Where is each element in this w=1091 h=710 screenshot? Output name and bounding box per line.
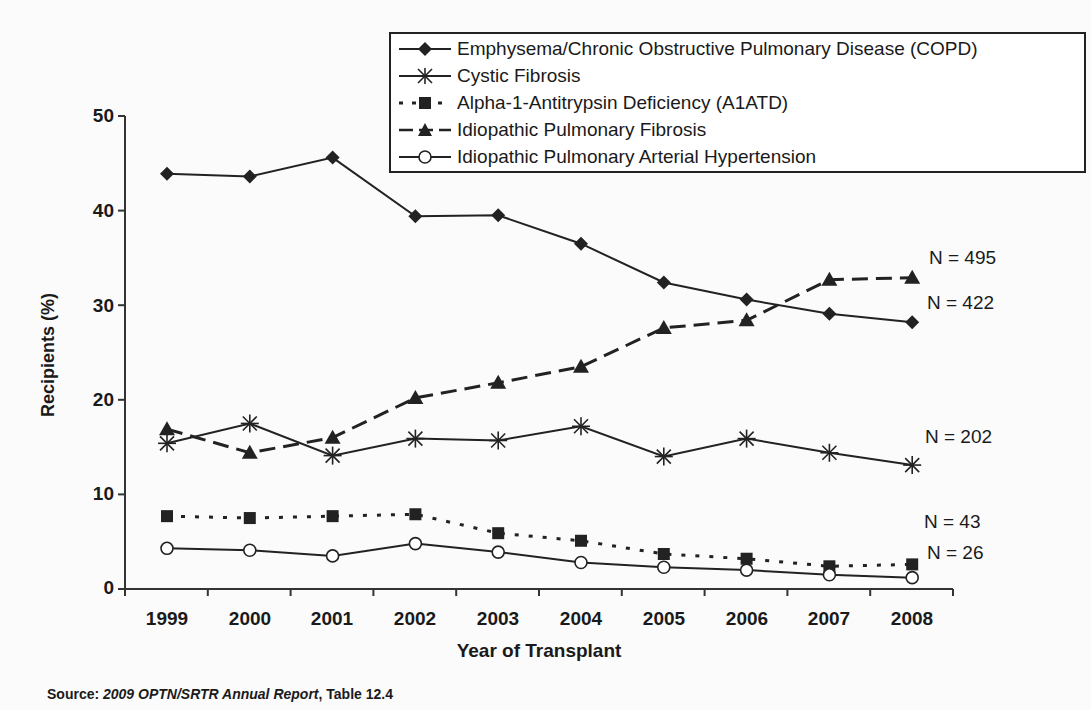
triangle-marker-icon: [397, 120, 453, 140]
data-point-circle: [161, 542, 173, 554]
x-tick-1999: 1999: [146, 608, 188, 630]
x-tick-2004: 2004: [560, 608, 602, 630]
legend-label: Emphysema/Chronic Obstructive Pulmonary …: [457, 38, 978, 60]
data-point-asterisk: [324, 447, 342, 465]
data-point-square: [575, 535, 587, 547]
square-marker-icon: [397, 93, 453, 113]
n-label-ipah: N = 26: [927, 542, 984, 564]
series-diamond: [160, 151, 919, 330]
data-point-asterisk: [572, 417, 590, 435]
data-point-circle: [244, 544, 256, 556]
source-caption: Source: 2009 OPTN/SRTR Annual Report, Ta…: [47, 686, 393, 702]
data-point-asterisk: [158, 434, 176, 452]
y-axis-label: Recipients (%): [38, 293, 59, 417]
chart-legend: Emphysema/Chronic Obstructive Pulmonary …: [389, 32, 1086, 173]
legend-label: Idiopathic Pulmonary Arterial Hypertensi…: [457, 146, 816, 168]
data-point-square: [161, 510, 173, 522]
data-point-triangle: [656, 320, 672, 334]
data-point-square: [492, 527, 504, 539]
data-point-square: [327, 510, 339, 522]
data-point-diamond: [574, 237, 588, 251]
x-axis-label: Year of Transplant: [457, 640, 622, 662]
x-tick-2006: 2006: [726, 608, 768, 630]
y-tick-10: 10: [74, 483, 114, 505]
legend-label: Alpha-1-Antitrypsin Deficiency (A1ATD): [457, 92, 788, 114]
x-tick-2002: 2002: [394, 608, 436, 630]
data-point-circle: [492, 546, 504, 558]
legend-label: Cystic Fibrosis: [457, 65, 581, 87]
x-tick-2007: 2007: [808, 608, 850, 630]
data-point-asterisk: [655, 448, 673, 466]
data-point-circle: [823, 569, 835, 581]
series-triangle: [159, 270, 920, 459]
x-tick-2008: 2008: [891, 608, 933, 630]
n-label-a1atd: N = 43: [924, 511, 981, 533]
data-point-square: [409, 508, 421, 520]
y-tick-40: 40: [74, 200, 114, 222]
data-point-triangle: [739, 312, 755, 326]
data-point-asterisk: [738, 430, 756, 448]
data-point-square: [906, 558, 918, 570]
y-tick-20: 20: [74, 389, 114, 411]
data-point-square: [741, 553, 753, 565]
data-point-square: [244, 512, 256, 524]
data-point-diamond: [160, 167, 174, 181]
legend-item-a1atd: Alpha-1-Antitrypsin Deficiency (A1ATD): [397, 90, 788, 116]
n-label-cf: N = 202: [925, 426, 992, 448]
data-point-asterisk: [820, 444, 838, 462]
data-point-asterisk: [241, 414, 259, 432]
data-point-diamond: [326, 151, 340, 165]
x-tick-2003: 2003: [477, 608, 519, 630]
y-tick-50: 50: [74, 105, 114, 127]
circle-marker-icon: [397, 147, 453, 167]
x-tick-2000: 2000: [229, 608, 271, 630]
legend-item-cf: Cystic Fibrosis: [397, 63, 581, 89]
x-tick-2005: 2005: [643, 608, 685, 630]
data-point-asterisk: [406, 430, 424, 448]
data-point-diamond: [822, 307, 836, 321]
data-point-circle: [327, 550, 339, 562]
diamond-marker-icon: [397, 39, 453, 59]
data-point-triangle: [325, 430, 341, 444]
data-point-diamond: [657, 275, 671, 289]
n-label-copd: N = 422: [927, 292, 994, 314]
series-asterisk: [158, 414, 921, 474]
data-point-diamond: [740, 293, 754, 307]
x-tick-2001: 2001: [311, 608, 353, 630]
data-point-diamond: [408, 209, 422, 223]
data-point-circle: [575, 557, 587, 569]
data-point-asterisk: [489, 431, 507, 449]
asterisk-marker-icon: [397, 66, 453, 86]
data-point-triangle: [159, 421, 175, 435]
data-point-diamond: [905, 315, 919, 329]
series-square: [161, 508, 918, 572]
data-point-diamond: [491, 208, 505, 222]
data-point-circle: [658, 561, 670, 573]
data-point-asterisk: [903, 456, 921, 474]
y-tick-0: 0: [74, 577, 114, 599]
legend-label: Idiopathic Pulmonary Fibrosis: [457, 119, 706, 141]
y-tick-30: 30: [74, 295, 114, 317]
data-point-circle: [409, 538, 421, 550]
data-point-circle: [741, 564, 753, 576]
legend-item-ipf: Idiopathic Pulmonary Fibrosis: [397, 117, 706, 143]
n-label-ipf: N = 495: [929, 247, 996, 269]
source-title: 2009 OPTN/SRTR Annual Report: [103, 686, 318, 702]
legend-item-copd: Emphysema/Chronic Obstructive Pulmonary …: [397, 36, 978, 62]
series-circle: [161, 538, 918, 584]
data-point-circle: [906, 572, 918, 584]
data-point-square: [658, 548, 670, 560]
data-point-diamond: [243, 170, 257, 184]
legend-item-ipah: Idiopathic Pulmonary Arterial Hypertensi…: [397, 144, 816, 170]
